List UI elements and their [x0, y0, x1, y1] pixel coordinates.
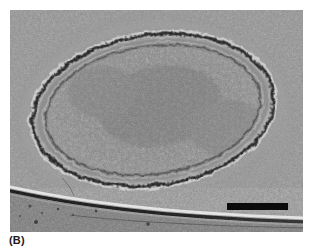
micrograph-canvas — [10, 10, 303, 232]
panel-label: (B) — [9, 233, 25, 247]
scale-bar — [227, 203, 288, 210]
figure-panel: (B) — [0, 0, 309, 250]
global-grain-overlay — [10, 10, 303, 232]
electron-micrograph-image — [10, 10, 303, 232]
